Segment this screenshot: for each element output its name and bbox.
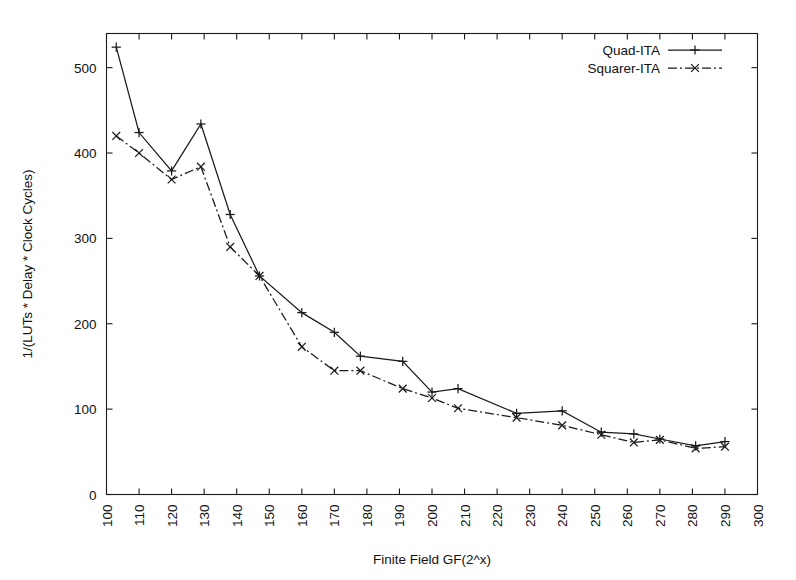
x-axis-tick-label: 130	[197, 505, 212, 528]
x-axis-tick-label: 210	[458, 505, 473, 528]
x-axis-tick-label: 290	[718, 505, 733, 528]
plot-frame	[107, 34, 758, 495]
x-axis-tick-label: 260	[620, 505, 635, 528]
y-axis-tick-label: 200	[74, 317, 97, 332]
x-axis-tick-label: 120	[165, 505, 180, 528]
y-axis-tick-label: 400	[74, 146, 97, 161]
legend-label: Squarer-ITA	[587, 61, 660, 76]
x-axis-tick-label: 280	[685, 505, 700, 528]
legend-entry: Quad-ITA	[602, 43, 722, 58]
series-line	[116, 47, 725, 446]
series-line	[116, 136, 725, 448]
y-axis-tick-label: 300	[74, 231, 97, 246]
x-axis-tick-label: 190	[392, 505, 407, 528]
series-squarer-ita	[112, 132, 728, 452]
line-chart-svg: 1001101201301401501601701801902002102202…	[0, 0, 796, 580]
x-axis-tick-label: 270	[653, 505, 668, 528]
x-axis-tick-label: 180	[360, 505, 375, 528]
y-axis-tick-label: 500	[74, 61, 97, 76]
x-axis-tick-label: 200	[425, 505, 440, 528]
legend-label: Quad-ITA	[602, 43, 660, 58]
x-axis-tick-label: 160	[295, 505, 310, 528]
x-axis-tick-label: 110	[132, 505, 147, 527]
x-axis-tick-label: 150	[262, 505, 277, 528]
series-quad-ita	[112, 43, 730, 451]
y-axis-tick-label: 0	[89, 488, 97, 503]
x-axis-title: Finite Field GF(2^x)	[373, 552, 491, 567]
x-axis-tick-label: 300	[751, 505, 766, 528]
x-axis-tick-label: 220	[490, 504, 505, 527]
legend-entry: Squarer-ITA	[587, 61, 722, 76]
chart-figure: 1001101201301401501601701801902002102202…	[0, 0, 796, 580]
y-axis-title: 1/(LUTs * Delay * Clock Cycles)	[20, 169, 35, 358]
x-axis-tick-label: 140	[230, 505, 245, 528]
x-axis-tick-label: 250	[588, 505, 603, 528]
y-axis-tick-label: 100	[74, 402, 97, 417]
x-axis-tick-label: 100	[100, 505, 115, 528]
x-axis-tick-label: 240	[555, 505, 570, 528]
x-axis-tick-label: 170	[327, 505, 342, 528]
x-axis-tick-label: 230	[523, 505, 538, 528]
